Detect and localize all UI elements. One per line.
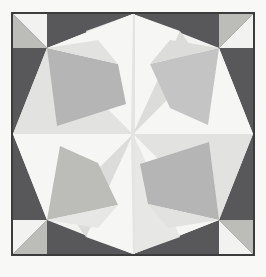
artboard bbox=[0, 0, 266, 277]
geometric-star-artwork bbox=[0, 0, 266, 277]
shape-layer bbox=[13, 14, 253, 254]
